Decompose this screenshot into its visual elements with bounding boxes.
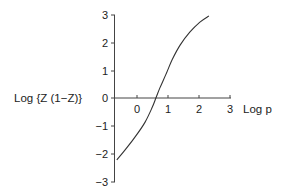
y-tick-label: 0 <box>102 92 108 104</box>
x-tick-label: 3 <box>227 103 233 115</box>
x-axis-label: Log p <box>243 103 272 115</box>
y-tick-label: 1 <box>102 65 108 77</box>
y-axis-label: Log {Z (1−Z)} <box>14 92 82 104</box>
x-tick-label: 2 <box>196 103 202 115</box>
y-tick-label: −3 <box>95 176 108 188</box>
x-tick-label: 0 <box>134 103 140 115</box>
chart: 3 2 1 0 −1 −2 −3 0 1 2 3 Log {Z (1−Z)} L… <box>0 0 282 195</box>
y-tick-label: 3 <box>102 9 108 21</box>
x-tick-label: 1 <box>165 103 171 115</box>
y-tick-label: −1 <box>95 120 108 132</box>
y-tick-label: −2 <box>95 148 108 160</box>
y-tick-label: 2 <box>102 37 108 49</box>
data-curve <box>117 16 209 160</box>
